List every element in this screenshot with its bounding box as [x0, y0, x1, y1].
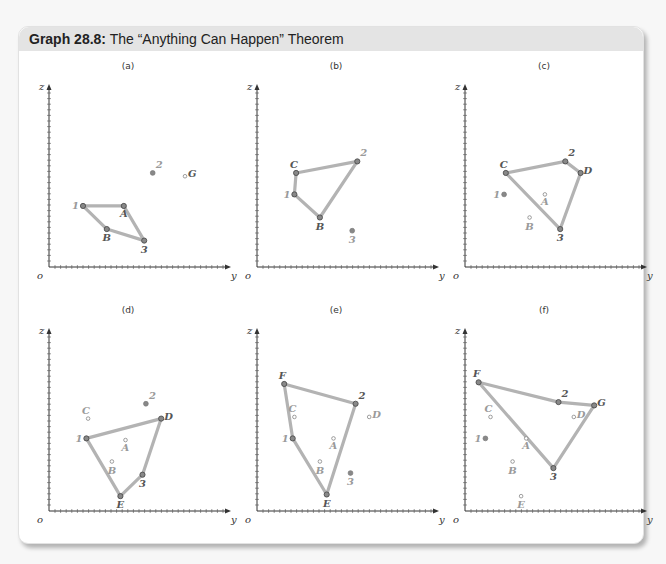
point-A: A: [540, 193, 549, 208]
point-1: 1: [72, 200, 86, 211]
svg-text:B: B: [102, 232, 111, 243]
axes: yzo: [453, 325, 653, 525]
svg-text:G: G: [597, 397, 606, 408]
svg-text:3: 3: [550, 471, 557, 482]
svg-text:C: C: [500, 159, 508, 170]
svg-text:3: 3: [347, 476, 354, 487]
svg-text:2: 2: [148, 390, 156, 401]
svg-text:o: o: [245, 514, 251, 525]
hull-polygon: [83, 206, 144, 241]
svg-text:D: D: [576, 409, 586, 420]
figure-card: Graph 28.8: The “Anything Can Happen” Th…: [18, 26, 644, 544]
point-E: E: [516, 494, 525, 510]
point-D: D: [572, 409, 586, 420]
point-F: F: [472, 368, 481, 385]
point-B: B: [315, 460, 324, 476]
figure-title: Graph 28.8: The “Anything Can Happen” Th…: [29, 31, 344, 47]
svg-text:3: 3: [349, 234, 356, 245]
svg-text:D: D: [163, 411, 173, 422]
svg-text:B: B: [107, 465, 116, 476]
point-2: 2: [355, 147, 368, 164]
svg-text:3: 3: [557, 232, 564, 243]
svg-text:z: z: [246, 81, 253, 92]
panel-f: (f)yzoF2G3CD1ABE: [439, 299, 649, 539]
point-C: C: [290, 159, 299, 176]
svg-text:z: z: [454, 325, 461, 336]
point-G: G: [592, 397, 607, 408]
panel-label: (b): [330, 61, 343, 71]
panel-b: (b)yzoC21B3: [231, 55, 441, 295]
point-A: A: [329, 437, 338, 452]
point-2: 2: [353, 390, 366, 407]
svg-text:2: 2: [155, 159, 163, 170]
svg-text:o: o: [453, 514, 459, 525]
svg-text:2: 2: [561, 388, 569, 399]
svg-text:B: B: [507, 465, 516, 476]
point-1: 1: [493, 189, 506, 200]
svg-text:A: A: [119, 208, 128, 219]
svg-text:1: 1: [493, 189, 500, 200]
svg-text:y: y: [646, 514, 653, 525]
svg-text:2: 2: [567, 147, 575, 158]
svg-text:2: 2: [359, 147, 367, 158]
svg-text:E: E: [516, 499, 525, 510]
hull-polygon: [479, 382, 595, 468]
panel-label: (c): [538, 61, 550, 71]
point-C: C: [485, 403, 493, 419]
hull-polygon: [294, 161, 357, 217]
svg-text:C: C: [485, 403, 493, 414]
svg-text:3: 3: [141, 244, 148, 255]
point-E: E: [322, 492, 331, 509]
svg-text:B: B: [315, 465, 324, 476]
panel-c-plot: (c)yzoC2D31AB: [439, 55, 649, 295]
svg-text:C: C: [290, 159, 298, 170]
axes: yzo: [453, 81, 653, 281]
svg-text:2: 2: [358, 390, 366, 401]
point-B: B: [524, 216, 533, 232]
axes: yzo: [245, 325, 445, 525]
point-B: B: [315, 215, 324, 232]
svg-text:o: o: [37, 514, 43, 525]
panel-label: (f): [539, 305, 549, 315]
svg-text:A: A: [329, 440, 338, 451]
figure-header: Graph 28.8: The “Anything Can Happen” Th…: [19, 27, 643, 51]
point-E: E: [116, 494, 125, 511]
svg-text:A: A: [521, 440, 530, 451]
svg-text:y: y: [646, 270, 653, 281]
panel-f-plot: (f)yzoF2G3CD1ABE: [439, 299, 649, 539]
point-2: 2: [563, 147, 576, 164]
point-G: G: [183, 168, 197, 179]
figure-caption: The “Anything Can Happen” Theorem: [106, 31, 344, 47]
point-3: 3: [141, 238, 148, 255]
hull-polygon: [86, 419, 161, 497]
panel-b-plot: (b)yzoC21B3: [231, 55, 441, 295]
point-3: 3: [349, 228, 356, 244]
svg-text:E: E: [322, 498, 331, 509]
svg-text:C: C: [82, 405, 90, 416]
panel-label: (e): [330, 305, 343, 315]
svg-text:D: D: [371, 409, 381, 420]
svg-text:3: 3: [139, 478, 146, 489]
svg-text:B: B: [524, 221, 533, 232]
point-3: 3: [347, 471, 354, 487]
panel-e: (e)yzoF2E1CDAB3: [231, 299, 441, 539]
svg-text:1: 1: [75, 433, 82, 444]
figure-number: Graph 28.8:: [29, 31, 106, 47]
svg-text:o: o: [245, 270, 251, 281]
svg-text:B: B: [315, 221, 324, 232]
svg-text:E: E: [116, 499, 125, 510]
axes: yzo: [37, 81, 237, 281]
svg-text:z: z: [38, 325, 45, 336]
svg-text:1: 1: [283, 189, 290, 200]
point-3: 3: [550, 466, 557, 483]
svg-text:1: 1: [72, 200, 79, 211]
point-D: D: [578, 165, 593, 176]
svg-text:z: z: [246, 325, 253, 336]
point-1: 1: [474, 433, 487, 444]
panel-a-plot: (a)yzo1AB32G: [23, 55, 233, 295]
svg-text:D: D: [583, 165, 593, 176]
svg-text:C: C: [288, 403, 296, 414]
panel-a: (a)yzo1AB32G: [23, 55, 233, 295]
svg-text:A: A: [121, 442, 130, 453]
point-A: A: [121, 438, 130, 453]
